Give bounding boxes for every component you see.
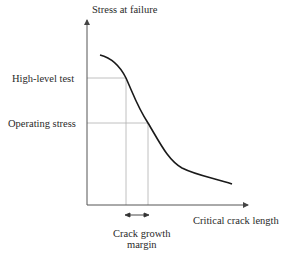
y-axis-label: Stress at failure xyxy=(92,4,157,16)
high-level-test-label: High-level test xyxy=(12,73,74,85)
x-axis-label: Critical crack length xyxy=(193,215,279,227)
margin-label-line2: margin xyxy=(127,239,157,251)
stress-curve xyxy=(100,55,232,184)
margin-arrow xyxy=(125,213,149,217)
guide-lines xyxy=(87,78,148,205)
operating-stress-label: Operating stress xyxy=(8,118,76,130)
